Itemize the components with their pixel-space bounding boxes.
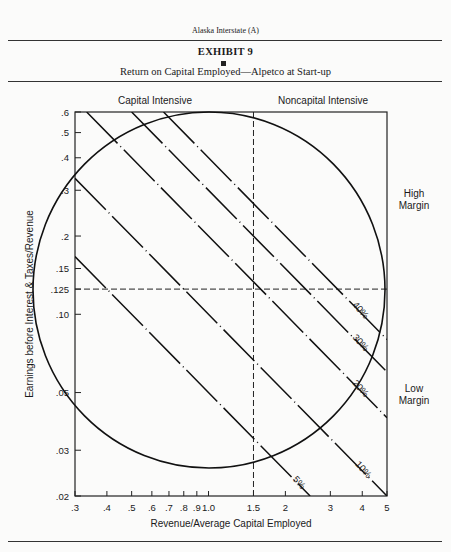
x-tick-label: .9 [193,502,201,513]
high-margin-label-line2: Margin [399,200,430,211]
roce-line-30pct [132,112,387,372]
region-circle [33,112,385,468]
x-tick-label: .4 [103,502,111,513]
y-tick-label: .5 [61,127,69,138]
x-tick-label: 1.0 [202,502,215,513]
roce-line-10pct [75,178,387,496]
y-tick-label: .10 [56,309,69,320]
roce-label-30pct: 30% [350,332,371,354]
x-tick-label: .8 [180,502,188,513]
roce-label-20pct: 20% [350,377,371,399]
y-tick-label: .03 [56,445,69,456]
x-tick-label: .3 [71,502,79,513]
x-tick-label: .7 [165,502,173,513]
x-tick-label: 5 [384,502,389,513]
low-margin-label-line1: Low [405,383,424,394]
quadrant-label-noncapital-intensive: Noncapital Intensive [278,95,368,106]
y-tick-label: .125 [51,284,70,295]
roce-label-40pct: 40% [350,299,371,321]
y-tick-label: .2 [61,231,69,242]
roce-chart: .3.4.5.6.7.8.91.01.52345.02.03.05.10.125… [0,0,451,552]
x-tick-label: .6 [148,502,156,513]
y-tick-label: .4 [61,152,69,163]
roce-label-5pct: 5% [291,473,309,491]
roce-label-10pct: 10% [353,459,374,481]
y-tick-label: .02 [56,491,69,502]
high-margin-label-line1: High [404,188,425,199]
x-tick-label: 2 [283,502,288,513]
iso-roce-lines [75,112,387,496]
x-tick-label: 3 [328,502,333,513]
y-tick-label: .6 [61,107,69,118]
roce-line-5pct [75,257,310,496]
x-tick-label: 1.5 [247,502,260,513]
x-axis-label: Revenue/Average Capital Employed [150,518,311,529]
x-tick-label: 4 [360,502,365,513]
y-tick-label: .15 [56,263,69,274]
quadrant-label-capital-intensive: Capital Intensive [118,95,192,106]
low-margin-label-line2: Margin [399,395,430,406]
x-tick-label: .5 [128,502,136,513]
plot-area: .3.4.5.6.7.8.91.01.52345.02.03.05.10.125… [24,95,429,529]
roce-line-20pct [87,112,387,418]
